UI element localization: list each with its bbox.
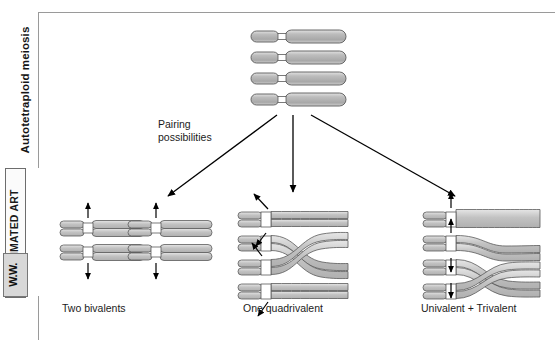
frame-left-border-lower [38,296,39,340]
caption-univalent-trivalent: Univalent + Trivalent [421,302,516,314]
panel-univalent-trivalent-graphic [423,193,540,299]
parent-chromosome-set [251,30,346,106]
parent-chromosome-3 [251,72,346,85]
unitri-right-arms [456,210,540,299]
quadrivalent-arrows [252,194,268,316]
bivalent-left [60,203,144,279]
publisher-logo: W.W. [3,253,28,297]
diagram-graphics [0,0,555,340]
panel-one-quadrivalent-graphic [238,194,348,316]
parent-chromosome-1 [251,30,346,43]
pairing-possibilities-label: Pairing possibilities [158,118,212,144]
parent-chromosome-4 [251,93,346,106]
unitri-centromeres [446,212,456,299]
unitri-left-arms [423,212,447,299]
pairing-label-line-1: Pairing [158,118,212,131]
frame-top-border [38,12,555,13]
pairing-label-line-2: possibilities [158,131,212,144]
bivalent-right [128,203,212,279]
figure-title: Autotetraploid meiosis [19,5,39,175]
quadrivalent-left-arms [238,212,262,299]
caption-two-bivalents: Two bivalents [62,302,126,314]
quadrivalent-centromeres [261,212,271,299]
publisher-logo-text: W.W. [7,253,23,297]
frame-left-border-upper [38,12,39,168]
caption-one-quadrivalent: One quadrivalent [243,302,323,314]
figure-stage: Autotetraploid meiosis ANIMATED ART W.W. [0,0,555,340]
branch-arrow-right [311,115,455,196]
panel-two-bivalents-graphic [60,203,212,279]
parent-chromosome-2 [251,51,346,64]
quadrivalent-right-arms [271,212,348,299]
left-rail: Autotetraploid meiosis ANIMATED ART W.W. [0,0,38,340]
